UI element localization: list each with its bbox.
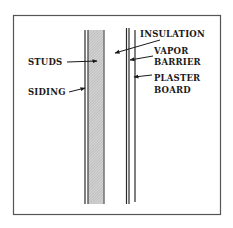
arrow-siding (69, 88, 85, 92)
label-plaster: PLASTER (154, 73, 201, 83)
label-insulation: INSULATION (140, 29, 205, 39)
diagram-frame (14, 16, 221, 215)
label-siding: SIDING (28, 87, 66, 97)
arrow-vapor-barrier (130, 56, 153, 60)
label-barrier: BARRIER (154, 57, 202, 67)
label-vapor: VAPOR (153, 46, 189, 56)
label-board: BOARD (154, 85, 191, 95)
label-studs: STUDS (28, 57, 62, 67)
studs-region (88, 30, 104, 204)
arrow-plaster-board (134, 75, 152, 77)
wall-section-diagram: INSULATION VAPOR BARRIER STUDS PLASTER B… (0, 0, 233, 228)
